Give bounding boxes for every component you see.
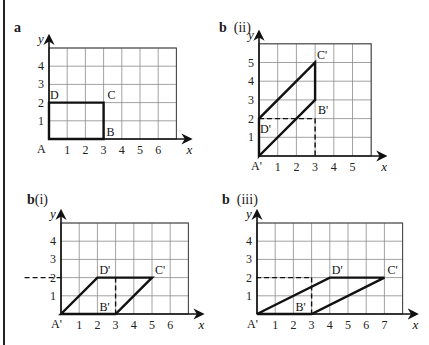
vertex-label: A' bbox=[51, 317, 62, 331]
vertex-label: C' bbox=[317, 48, 327, 62]
vertex-label: D' bbox=[99, 263, 110, 277]
coordinate-grids-figure: xy1234561234ABCD xy1234512345A'B'C'D' xy… bbox=[0, 0, 429, 345]
x-tick-label: 7 bbox=[381, 318, 387, 332]
x-tick-label: 1 bbox=[64, 143, 70, 157]
vertex-label: B' bbox=[318, 103, 328, 117]
y-tick-label: 1 bbox=[38, 114, 44, 128]
x-tick-label: 6 bbox=[167, 318, 173, 332]
grid-frame bbox=[61, 223, 188, 314]
y-tick-label: 2 bbox=[38, 96, 44, 110]
y-tick-label: 1 bbox=[248, 130, 254, 144]
x-tick-label: 1 bbox=[76, 318, 82, 332]
vertex-label: D' bbox=[332, 263, 343, 277]
x-tick-label: 3 bbox=[113, 318, 119, 332]
y-tick-label: 2 bbox=[248, 112, 254, 126]
x-tick-label: 2 bbox=[82, 143, 88, 157]
y-tick-label: 2 bbox=[246, 271, 252, 285]
x-axis-label: x bbox=[197, 317, 204, 332]
x-axis-label: x bbox=[185, 142, 192, 157]
x-tick-label: 5 bbox=[149, 318, 155, 332]
x-tick-label: 6 bbox=[363, 318, 369, 332]
y-tick-label: 4 bbox=[38, 59, 44, 73]
grid-panel-a: xy1234561234ABCD bbox=[36, 31, 192, 157]
x-tick-label: 2 bbox=[94, 318, 100, 332]
y-tick-label: 3 bbox=[246, 252, 252, 266]
grid-lines bbox=[257, 223, 403, 314]
x-tick-label: 1 bbox=[275, 160, 281, 174]
x-axis-label: x bbox=[412, 317, 419, 332]
grid-panel-b-iii: xy12345671234A'B'C'D' bbox=[244, 206, 419, 332]
vertex-label: B bbox=[107, 125, 115, 139]
x-tick-label: 4 bbox=[119, 143, 125, 157]
quadrilateral-shape bbox=[259, 63, 315, 157]
x-tick-label: 3 bbox=[312, 160, 318, 174]
x-tick-label: 5 bbox=[345, 318, 351, 332]
y-tick-label: 5 bbox=[248, 56, 254, 70]
vertex-label: B' bbox=[296, 300, 306, 314]
grid-lines bbox=[61, 223, 188, 314]
x-tick-label: 3 bbox=[101, 143, 107, 157]
x-axis-label: x bbox=[380, 159, 387, 174]
vertex-label: A' bbox=[251, 159, 262, 173]
y-tick-label: 3 bbox=[248, 93, 254, 107]
vertex-label: A bbox=[37, 142, 46, 156]
x-tick-label: 1 bbox=[272, 318, 278, 332]
vertex-label: C' bbox=[155, 263, 165, 277]
y-tick-label: 4 bbox=[246, 234, 252, 248]
y-tick-label: 3 bbox=[38, 77, 44, 91]
y-tick-label: 1 bbox=[246, 289, 252, 303]
y-tick-label: 4 bbox=[248, 74, 254, 88]
vertex-label: C' bbox=[387, 263, 397, 277]
x-tick-label: 3 bbox=[309, 318, 315, 332]
x-tick-label: 5 bbox=[137, 143, 143, 157]
y-tick-label: 3 bbox=[50, 252, 56, 266]
x-tick-label: 2 bbox=[290, 318, 296, 332]
vertex-label: D' bbox=[260, 122, 271, 136]
x-tick-label: 4 bbox=[327, 318, 333, 332]
vertex-label: C bbox=[108, 88, 116, 102]
x-tick-label: 4 bbox=[131, 318, 137, 332]
x-tick-label: 2 bbox=[293, 160, 299, 174]
x-tick-label: 6 bbox=[155, 143, 161, 157]
grid-panel-b-i: xy1234561234A'B'C'D' bbox=[25, 206, 205, 332]
vertex-label: B' bbox=[100, 300, 110, 314]
vertex-label: A' bbox=[247, 317, 258, 331]
x-tick-label: 4 bbox=[331, 160, 337, 174]
y-axis-label: y bbox=[244, 206, 252, 221]
y-axis-label: y bbox=[246, 27, 254, 42]
y-tick-label: 4 bbox=[50, 234, 56, 248]
grid-panel-b-ii: xy1234512345A'B'C'D' bbox=[246, 27, 387, 174]
vertex-label: D bbox=[50, 88, 59, 102]
x-tick-label: 5 bbox=[350, 160, 356, 174]
y-axis-label: y bbox=[36, 31, 44, 46]
y-axis-label: y bbox=[48, 206, 56, 221]
y-tick-label: 1 bbox=[50, 289, 56, 303]
